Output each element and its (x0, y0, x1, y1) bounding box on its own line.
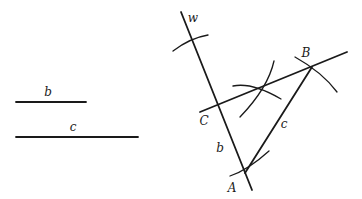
point-C: C (199, 114, 208, 128)
arc-at-A (230, 151, 269, 176)
label-ca-b: b (216, 141, 224, 155)
point-B: B (301, 46, 311, 60)
label-c: c (70, 120, 77, 134)
label-w: w (188, 11, 199, 25)
segment-ab (245, 67, 312, 173)
label-ab-c: c (281, 117, 288, 131)
point-A: A (227, 181, 237, 195)
geometry-diagram: bcwcbABC (0, 0, 362, 199)
arc-at-B (295, 57, 337, 92)
label-b: b (44, 85, 52, 99)
line-w (181, 12, 252, 190)
